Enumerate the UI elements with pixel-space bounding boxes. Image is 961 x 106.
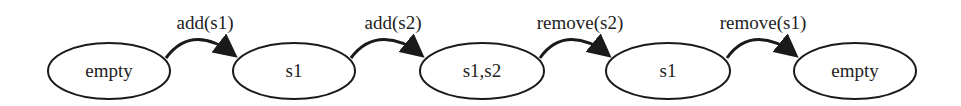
edge-label: remove(s2): [537, 12, 624, 34]
state-diagram: add(s1) add(s2) remove(s2) remove(s1) em…: [0, 0, 961, 106]
edge-label: add(s1): [177, 12, 234, 34]
edge-add-s2: [351, 40, 420, 59]
state-node-s1: s1: [233, 43, 355, 99]
node-label: s1: [286, 60, 303, 81]
edge-label: remove(s1): [720, 12, 807, 34]
state-node-empty: empty: [48, 43, 170, 99]
state-node-s1-after-remove: s1: [606, 43, 730, 99]
node-label: empty: [85, 60, 133, 81]
node-label: s1: [660, 60, 677, 81]
edge-remove-s2: [540, 40, 607, 59]
state-node-s1-s2: s1,s2: [420, 43, 544, 99]
edge-label: add(s2): [365, 12, 422, 34]
node-label: empty: [831, 60, 879, 81]
node-label: s1,s2: [463, 60, 502, 81]
state-node-empty-final: empty: [794, 43, 916, 99]
edge-add-s1: [166, 40, 233, 59]
edge-remove-s1: [727, 40, 794, 59]
